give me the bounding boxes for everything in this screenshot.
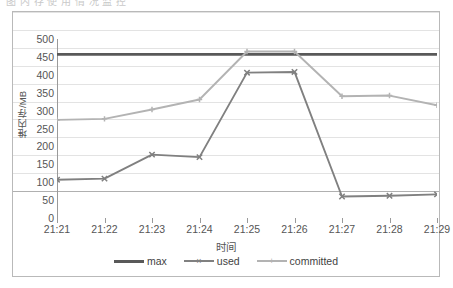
legend-label: max bbox=[147, 255, 167, 267]
x-axis-tick-label: 21:29 bbox=[424, 223, 450, 235]
data-point-marker bbox=[57, 117, 60, 122]
y-axis-tick-labels: 050100150200250300350400450500 bbox=[13, 12, 54, 276]
legend-line-max bbox=[114, 260, 144, 263]
legend-marker-x-icon: × bbox=[196, 257, 201, 266]
x-axis-tick-label: 21:28 bbox=[376, 223, 402, 235]
legend-swatch-max bbox=[114, 256, 144, 266]
chart-container: 050100150200250300350400450500 堆内存/MB 21… bbox=[12, 11, 440, 277]
legend-item-used[interactable]: ×used bbox=[184, 255, 240, 267]
series-line-committed bbox=[57, 52, 437, 120]
data-series-layer bbox=[57, 39, 437, 218]
plot-wrapper: 050100150200250300350400450500 堆内存/MB 21… bbox=[13, 12, 439, 276]
x-axis-tick-label: 21:26 bbox=[281, 223, 307, 235]
clipped-top-text: 图 内 存 使 用 情 况 监 控 bbox=[6, 0, 127, 8]
x-axis-tick-label: 21:24 bbox=[186, 223, 212, 235]
data-point-marker bbox=[434, 103, 437, 108]
y-axis-tick-label: 200 bbox=[36, 141, 54, 151]
data-point-marker bbox=[102, 116, 107, 121]
y-axis-tick-label: 250 bbox=[36, 124, 54, 134]
series-line-used bbox=[57, 72, 437, 197]
gridline bbox=[13, 30, 439, 31]
legend-label: used bbox=[217, 255, 240, 267]
x-axis-tick-label: 21:21 bbox=[44, 223, 70, 235]
y-axis-title: 堆内存/MB bbox=[16, 91, 30, 138]
y-axis-tick-label: 150 bbox=[36, 159, 54, 169]
y-axis-tick-label: 50 bbox=[42, 195, 54, 205]
legend-swatch-used: × bbox=[184, 256, 214, 266]
chart-legend: max×used+committed bbox=[13, 255, 439, 267]
legend-marker-plus-icon: + bbox=[269, 257, 274, 266]
x-axis-tick-label: 21:22 bbox=[91, 223, 117, 235]
y-axis-tick-label: 350 bbox=[36, 88, 54, 98]
legend-swatch-committed: + bbox=[257, 256, 287, 266]
y-axis-tick-label: 400 bbox=[36, 70, 54, 80]
data-point-marker bbox=[387, 93, 392, 98]
y-axis-tick-label: 500 bbox=[36, 34, 54, 44]
y-axis-tick-label: 300 bbox=[36, 106, 54, 116]
legend-item-max[interactable]: max bbox=[114, 255, 167, 267]
x-axis-title: 时间 bbox=[13, 239, 439, 254]
gridline bbox=[13, 12, 439, 13]
x-axis-tick-label: 21:27 bbox=[329, 223, 355, 235]
y-axis-tick-label: 0 bbox=[48, 213, 54, 223]
legend-item-committed[interactable]: +committed bbox=[257, 255, 338, 267]
y-axis-tick-label: 100 bbox=[36, 177, 54, 187]
legend-label: committed bbox=[290, 255, 338, 267]
x-axis-tick-labels: 21:2121:2221:2321:2421:2521:2621:2721:28… bbox=[57, 223, 437, 237]
y-axis-tick-label: 450 bbox=[36, 52, 54, 62]
series-used bbox=[57, 69, 437, 199]
series-committed bbox=[57, 49, 437, 123]
clipped-top-text-strip: 图 内 存 使 用 情 况 监 控 bbox=[0, 0, 453, 9]
data-point-marker bbox=[149, 107, 154, 112]
x-axis-tick-label: 21:25 bbox=[234, 223, 260, 235]
x-axis-tick-label: 21:23 bbox=[139, 223, 165, 235]
